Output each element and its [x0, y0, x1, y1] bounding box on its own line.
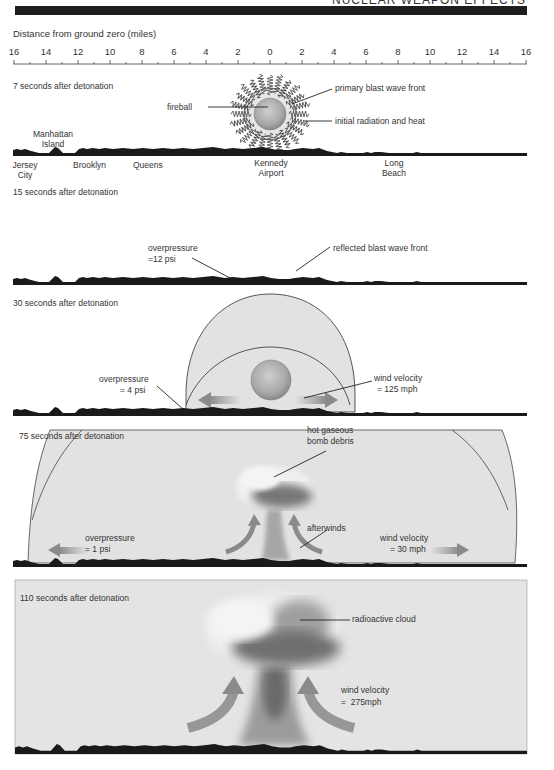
place-brooklyn: Brooklyn	[73, 160, 106, 170]
label-overpressure: overpressure	[85, 533, 135, 543]
place-manhattan: ManhattanIsland	[33, 129, 73, 149]
label-overpressure: overpressure	[148, 243, 198, 253]
panel-title: 7 seconds after detonation	[13, 81, 113, 91]
axis-ruler	[13, 60, 527, 64]
label-primary-blast-wave: primary blast wave front	[335, 83, 425, 93]
panel-title: 30 seconds after detonation	[13, 298, 118, 308]
label-wind-velocity: wind velocity	[374, 373, 422, 383]
label-wind-velocity-value: = 125 mph	[377, 384, 417, 394]
label-radioactive-cloud: radioactive cloud	[352, 614, 416, 624]
panel-title: 110 seconds after detonation	[20, 593, 129, 603]
panel-110s-graphic	[15, 580, 527, 754]
label-wind-velocity: wind velocity	[380, 533, 428, 543]
place-queens: Queens	[133, 160, 163, 170]
diagram-graphics	[0, 0, 554, 770]
label-hot-gaseous: hot gaseous	[307, 425, 353, 435]
label-overpressure: overpressure	[99, 374, 149, 384]
label-wind-velocity: wind velocity	[341, 685, 389, 695]
panel-title: 15 seconds after detonation	[13, 187, 118, 197]
panel-15s-graphic	[13, 189, 527, 285]
label-bomb-debris: bomb debris	[307, 436, 354, 446]
place-kennedy-airport: KennedyAirport	[254, 158, 288, 178]
label-initial-radiation: initial radiation and heat	[335, 116, 425, 126]
label-afterwinds: afterwinds	[307, 523, 346, 533]
place-long-beach: LongBeach	[382, 158, 406, 178]
label-overpressure-value: = 1 psi	[85, 544, 110, 554]
label-wind-velocity-value: = 30 mph	[390, 544, 426, 554]
panel-30s-graphic	[13, 294, 527, 416]
label-overpressure-value: = 4 psi	[120, 385, 145, 395]
label-fireball: fireball	[167, 102, 192, 112]
label-reflected-blast-wave: reflected blast wave front	[333, 243, 428, 253]
place-jersey-city: JerseyCity	[12, 160, 37, 180]
label-overpressure-value: =12 psi	[148, 254, 176, 264]
panel-title: 75 seconds after detonation	[19, 431, 124, 441]
label-wind-velocity-value: = 275mph	[341, 697, 381, 707]
